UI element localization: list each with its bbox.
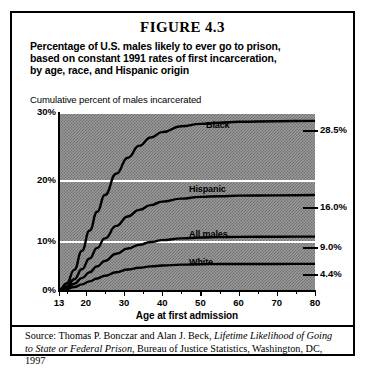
x-tick-label-40: 40 [157,297,168,308]
x-tick-major-80 [315,291,316,296]
x-tick-minor-55 [220,291,221,294]
x-tick-minor-45 [181,291,182,294]
end-dash-black [303,130,318,132]
source-divider [12,325,353,327]
x-tick-minor-15 [67,291,68,294]
x-tick-minor-75 [296,291,297,294]
x-tick-minor-35 [143,291,144,294]
series-curves [59,112,315,290]
y-axis-line [58,112,60,291]
x-tick-label-80: 80 [310,297,321,308]
x-axis-title: Age at first admission [59,310,315,321]
y-tick-10: 10% [14,235,56,246]
curve-hispanic [59,195,315,290]
end-label-white: 4.4% [320,268,342,279]
y-tick-0: 0% [14,284,56,295]
x-tick-major-40 [162,291,163,296]
y-tick-30: 30% [14,106,56,117]
series-label-white: White [189,257,213,267]
x-tick-major-30 [124,291,125,296]
plot-area: Black Hispanic All males White [59,112,315,290]
end-label-all-males: 9.0% [320,241,342,252]
end-dash-white [303,274,318,276]
y-tick-20: 20% [14,174,56,185]
x-tick-label-70: 70 [272,297,283,308]
chart-plot-wrapper: Black Hispanic All males White 30% 20% 1… [12,13,353,354]
source-italic-part-2: State or Federal Prison [35,343,132,354]
end-label-black: 28.5% [320,124,347,135]
x-tick-major-50 [200,291,201,296]
series-label-black: Black [206,120,230,130]
end-label-hispanic: 16.0% [320,201,347,212]
series-label-hispanic: Hispanic [189,184,226,194]
series-label-all-males: All males [189,229,228,239]
end-dash-all-males [303,247,318,249]
x-tick-major-70 [277,291,278,296]
x-tick-label-30: 30 [119,297,130,308]
x-tick-label-60: 60 [233,297,244,308]
y-axis-tick-labels: 30% 20% 10% 0% [12,13,56,354]
source-prefix: Source: Thomas P. Bonczar and Alan J. Be… [25,330,214,341]
x-tick-label-20: 20 [80,297,91,308]
x-tick-minor-65 [258,291,259,294]
x-tick-major-20 [86,291,87,296]
curve-white [59,264,315,290]
figure-frame: FIGURE 4.3 Percentage of U.S. males like… [10,11,355,356]
x-tick-label-13: 13 [54,297,65,308]
x-tick-major-60 [239,291,240,296]
x-tick-minor-25 [105,291,106,294]
end-dash-hispanic [303,207,318,209]
x-tick-label-50: 50 [195,297,206,308]
x-tick-major-13 [59,291,60,296]
source-note: Source: Thomas P. Bonczar and Alan J. Be… [25,330,341,368]
